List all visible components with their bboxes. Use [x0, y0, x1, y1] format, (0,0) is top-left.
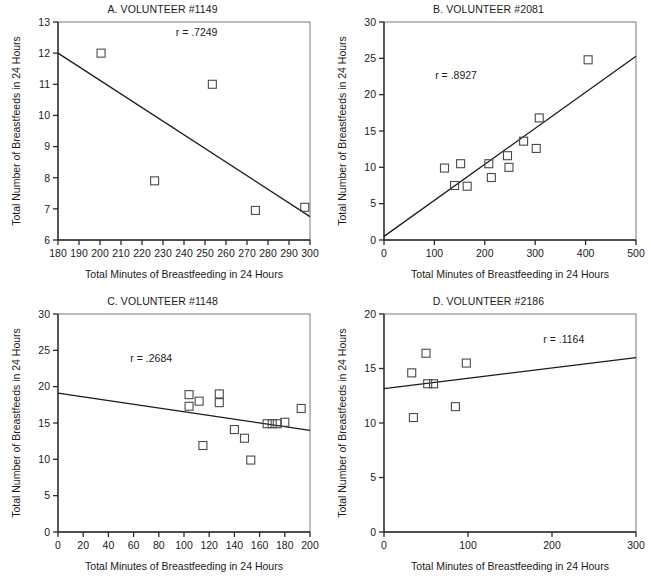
data-point-marker [185, 391, 193, 399]
y-axis-title: Total Number of Breastfeeds in 24 Hours [336, 328, 348, 518]
x-tick-label: 280 [259, 247, 277, 259]
x-tick-label: 500 [627, 247, 645, 259]
data-point-marker [503, 152, 511, 160]
x-tick-label: 0 [381, 247, 387, 259]
x-tick-label: 60 [128, 539, 140, 551]
y-tick-label: 0 [370, 234, 376, 246]
scatter-plot-b: 0510152025300100200300400500r = .8927Tot… [326, 0, 651, 290]
data-point-marker [532, 144, 540, 152]
data-point-marker [409, 414, 417, 422]
data-point-marker [505, 163, 513, 171]
data-point-marker [230, 426, 238, 434]
x-tick-label: 190 [70, 247, 88, 259]
x-tick-label: 100 [175, 539, 193, 551]
x-tick-label: 20 [77, 539, 89, 551]
x-tick-label: 180 [276, 539, 294, 551]
data-point-marker [462, 359, 470, 367]
y-axis-title: Total Number of Breastfeeds in 24 Hours [10, 328, 22, 518]
data-point-marker [215, 399, 223, 407]
data-point-marker [273, 420, 281, 428]
y-tick-label: 0 [44, 526, 50, 538]
correlation-annotation: r = .1164 [543, 333, 584, 345]
data-point-marker [215, 390, 223, 398]
x-tick-label: 100 [459, 539, 477, 551]
y-tick-label: 5 [370, 197, 376, 209]
x-tick-label: 160 [251, 539, 269, 551]
y-tick-label: 8 [44, 172, 50, 184]
x-tick-label: 290 [280, 247, 298, 259]
x-tick-label: 40 [103, 539, 115, 551]
y-tick-label: 25 [364, 52, 376, 64]
scatter-plot-c: 051015202530020406080100120140160180200r… [0, 292, 325, 582]
data-point-marker [240, 434, 248, 442]
data-point-marker [281, 418, 289, 426]
correlation-annotation: r = .8927 [435, 69, 477, 81]
y-tick-label: 20 [364, 308, 376, 320]
y-tick-label: 11 [39, 78, 50, 90]
x-tick-label: 180 [49, 247, 67, 259]
y-axis-title: Total Number of Breastfeeds in 24 Hours [336, 36, 348, 226]
y-tick-label: 12 [38, 47, 50, 59]
data-point-marker [195, 397, 203, 405]
data-point-marker [199, 442, 207, 450]
data-point-marker [151, 177, 159, 185]
x-axis-title: Total Minutes of Breastfeeding in 24 Hou… [85, 268, 283, 280]
scatter-plot-a: 6789101112131801902002102202302402502602… [0, 0, 325, 290]
data-point-marker [422, 349, 430, 357]
data-point-marker [451, 403, 459, 411]
x-tick-label: 200 [543, 539, 561, 551]
y-tick-label: 20 [364, 88, 376, 100]
x-tick-label: 120 [200, 539, 218, 551]
x-tick-label: 230 [154, 247, 172, 259]
y-tick-label: 9 [44, 140, 50, 152]
y-axis-title: Total Number of Breastfeeds in 24 Hours [10, 36, 22, 226]
data-point-marker [440, 164, 448, 172]
x-tick-label: 0 [55, 539, 61, 551]
y-tick-label: 10 [38, 453, 50, 465]
data-point-marker [457, 160, 465, 168]
y-tick-label: 10 [38, 109, 50, 121]
y-tick-label: 13 [38, 16, 50, 28]
data-point-marker [301, 203, 309, 211]
y-tick-label: 15 [364, 362, 376, 374]
scatter-plot-d: 051015200100200300r = .1164Total Minutes… [326, 292, 651, 582]
y-tick-label: 10 [364, 417, 376, 429]
x-axis-title: Total Minutes of Breastfeeding in 24 Hou… [85, 560, 283, 572]
x-tick-label: 400 [577, 247, 595, 259]
data-point-marker [251, 206, 259, 214]
x-tick-label: 140 [226, 539, 244, 551]
data-point-marker [535, 114, 543, 122]
x-tick-label: 300 [301, 247, 319, 259]
x-tick-label: 0 [381, 539, 387, 551]
data-point-marker [487, 174, 495, 182]
x-tick-label: 200 [91, 247, 109, 259]
y-tick-label: 7 [44, 203, 50, 215]
data-point-marker [430, 380, 438, 388]
y-tick-label: 6 [44, 234, 50, 246]
x-tick-label: 240 [175, 247, 193, 259]
data-point-marker [408, 369, 416, 377]
figure-four-scatter-panels: A. VOLUNTEER #1149 678910111213180190200… [0, 0, 651, 587]
x-axis-title: Total Minutes of Breastfeeding in 24 Hou… [411, 560, 609, 572]
data-point-marker [463, 182, 471, 190]
x-tick-label: 200 [476, 247, 494, 259]
x-axis-title: Total Minutes of Breastfeeding in 24 Hou… [411, 268, 609, 280]
y-tick-label: 15 [364, 125, 376, 137]
y-tick-label: 0 [370, 526, 376, 538]
y-tick-label: 15 [38, 417, 50, 429]
data-point-marker [185, 402, 193, 410]
data-point-marker [584, 56, 592, 64]
x-tick-label: 210 [112, 247, 130, 259]
x-tick-label: 270 [238, 247, 256, 259]
y-tick-label: 5 [370, 471, 376, 483]
x-tick-label: 300 [627, 539, 645, 551]
y-tick-label: 20 [38, 380, 50, 392]
y-tick-label: 10 [364, 161, 376, 173]
correlation-annotation: r = .2684 [130, 352, 172, 364]
y-tick-label: 25 [38, 344, 50, 356]
y-tick-label: 30 [364, 16, 376, 28]
chart-panel-b: B. VOLUNTEER #2081 051015202530010020030… [326, 0, 651, 290]
correlation-annotation: r = .7249 [176, 26, 218, 38]
x-tick-label: 300 [526, 247, 544, 259]
chart-panel-d: D. VOLUNTEER #2186 051015200100200300r =… [326, 292, 651, 582]
